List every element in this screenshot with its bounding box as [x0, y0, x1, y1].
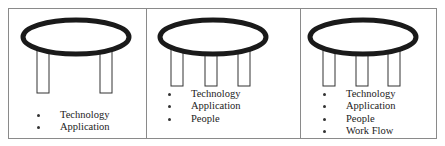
list-item: People: [320, 113, 396, 125]
bullet-list: Technology Application People Work Flow: [320, 88, 396, 138]
bullet-list: Technology Application People: [165, 88, 241, 125]
list-item: Application: [165, 100, 241, 112]
list-item: Technology: [34, 109, 110, 121]
bullet-list: Technology Application: [34, 109, 110, 134]
list-item: Application: [320, 100, 396, 112]
list-item: Application: [34, 121, 110, 133]
panel-two-legs: Technology Application: [9, 9, 146, 138]
list-item: Technology: [165, 88, 241, 100]
panel-three-legs-workflow: Technology Application People Work Flow: [300, 9, 436, 138]
list-item: Work Flow: [320, 125, 396, 137]
diagram-frame: Technology Application Technology Applic…: [8, 8, 437, 139]
list-item: People: [165, 113, 241, 125]
list-item: Technology: [320, 88, 396, 100]
panel-three-legs: Technology Application People: [146, 9, 300, 138]
